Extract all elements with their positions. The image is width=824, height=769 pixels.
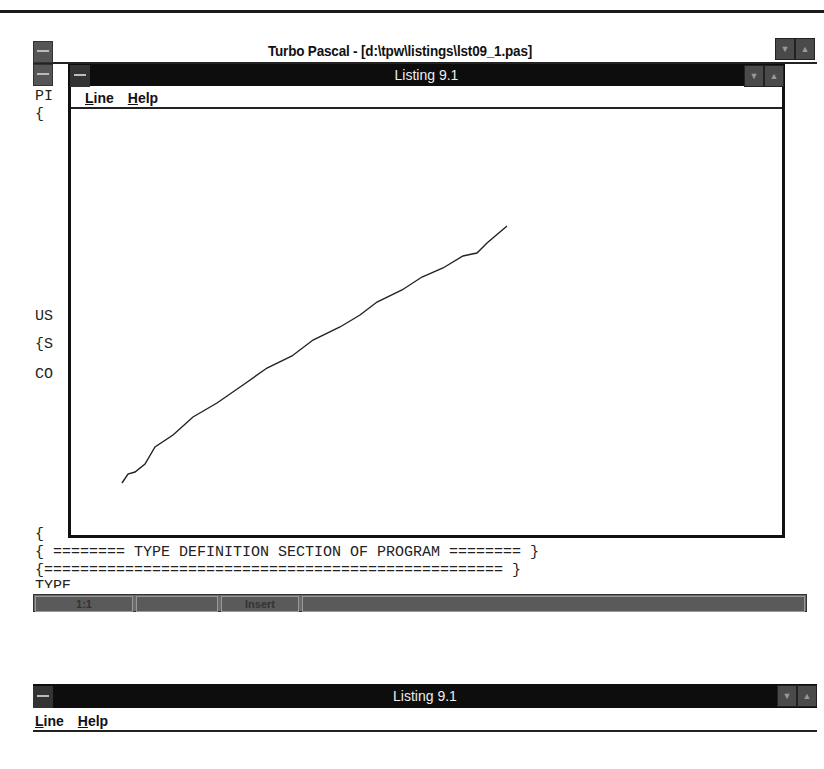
minimize-button[interactable]: ▼ <box>775 38 795 60</box>
status-insert-mode: Insert <box>221 596 299 612</box>
drawn-line <box>122 226 507 483</box>
bottom-listing-title: Listing 9.1 <box>33 688 817 704</box>
status-cursor-position: 1:1 <box>35 596 133 612</box>
code-line: { <box>35 526 44 543</box>
code-line: TYPE <box>35 578 71 588</box>
code-line: {S <box>35 336 53 353</box>
code-line: { <box>35 106 44 123</box>
bottom-menu-bar: Line Help <box>33 710 817 732</box>
listing-maximize-button[interactable]: ▲ <box>764 65 784 87</box>
status-message <box>302 596 805 612</box>
status-bar: 1:1 Insert <box>33 594 807 612</box>
bottom-minimize-button[interactable]: ▼ <box>777 685 797 707</box>
menu-help[interactable]: Help <box>128 87 158 107</box>
listing-menu-bar: Line Help <box>71 87 782 109</box>
drawing-canvas[interactable] <box>71 111 782 535</box>
code-line: PI <box>35 88 53 105</box>
code-line: US <box>35 308 53 325</box>
bottom-listing-title-bar[interactable]: Listing 9.1 ▼ ▲ <box>33 684 817 708</box>
bottom-menu-line[interactable]: Line <box>35 710 64 730</box>
listing-window-title: Listing 9.1 <box>68 67 785 83</box>
main-window-title: Turbo Pascal - [d:\tpw\listings\lst09_1.… <box>70 42 731 59</box>
code-line: CO <box>35 366 53 383</box>
code-line: { ======== TYPE DEFINITION SECTION OF PR… <box>35 544 539 561</box>
listing-window: Listing 9.1 ▼ ▲ Line Help <box>68 64 785 538</box>
menu-line[interactable]: Line <box>85 87 114 107</box>
bottom-maximize-button[interactable]: ▲ <box>797 685 817 707</box>
listing-title-bar[interactable]: Listing 9.1 ▼ ▲ <box>68 64 785 86</box>
status-modified <box>136 596 218 612</box>
listing-minimize-button[interactable]: ▼ <box>744 65 764 87</box>
main-title-bar[interactable]: Turbo Pascal - [d:\tpw\listings\lst09_1.… <box>33 40 817 64</box>
bottom-menu-help[interactable]: Help <box>78 710 108 730</box>
maximize-button[interactable]: ▲ <box>795 38 815 60</box>
code-line: {=======================================… <box>35 562 521 579</box>
page-top-rule <box>0 10 824 13</box>
system-menu-icon[interactable] <box>33 41 53 63</box>
